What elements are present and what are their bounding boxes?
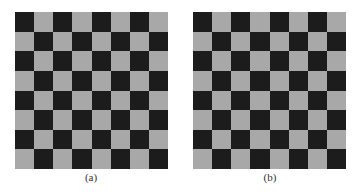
dark-square [193, 130, 212, 150]
light-square [53, 32, 72, 52]
caption-a: (a) [71, 171, 111, 183]
light-square [53, 149, 72, 169]
dark-square [327, 32, 346, 52]
light-square [193, 71, 212, 91]
light-square [231, 32, 250, 52]
dark-square [193, 12, 212, 32]
light-square [193, 149, 212, 169]
dark-square [193, 91, 212, 111]
light-square [15, 149, 34, 169]
dark-square [53, 130, 72, 150]
dark-square [130, 12, 149, 32]
dark-square [270, 130, 289, 150]
dark-square [231, 12, 250, 32]
dark-square [327, 110, 346, 130]
light-square [149, 130, 168, 150]
dark-square [212, 71, 231, 91]
checkerboard-b [193, 12, 346, 169]
caption-b: (b) [250, 171, 290, 183]
light-square [308, 110, 327, 130]
dark-square [72, 71, 91, 91]
light-square [15, 71, 34, 91]
light-square [130, 110, 149, 130]
light-square [92, 32, 111, 52]
dark-square [130, 91, 149, 111]
light-square [72, 91, 91, 111]
dark-square [130, 130, 149, 150]
checkerboard-a [15, 12, 168, 169]
dark-square [270, 51, 289, 71]
light-square [72, 51, 91, 71]
dark-square [53, 51, 72, 71]
light-square [53, 71, 72, 91]
light-square [34, 51, 53, 71]
light-square [231, 149, 250, 169]
light-square [92, 71, 111, 91]
dark-square [130, 51, 149, 71]
dark-square [53, 91, 72, 111]
dark-square [72, 110, 91, 130]
dark-square [111, 32, 130, 52]
dark-square [15, 91, 34, 111]
dark-square [231, 91, 250, 111]
light-square [289, 130, 308, 150]
dark-square [111, 149, 130, 169]
dark-square [289, 32, 308, 52]
light-square [327, 130, 346, 150]
dark-square [53, 12, 72, 32]
dark-square [34, 32, 53, 52]
dark-square [327, 149, 346, 169]
dark-square [250, 32, 269, 52]
light-square [34, 91, 53, 111]
light-square [327, 12, 346, 32]
light-square [308, 149, 327, 169]
light-square [130, 149, 149, 169]
light-square [149, 91, 168, 111]
dark-square [289, 149, 308, 169]
dark-square [308, 91, 327, 111]
dark-square [15, 51, 34, 71]
light-square [289, 12, 308, 32]
light-square [212, 51, 231, 71]
light-square [111, 91, 130, 111]
dark-square [212, 110, 231, 130]
dark-square [34, 71, 53, 91]
dark-square [92, 51, 111, 71]
light-square [193, 110, 212, 130]
light-square [53, 110, 72, 130]
light-square [289, 91, 308, 111]
dark-square [149, 149, 168, 169]
dark-square [231, 51, 250, 71]
light-square [111, 12, 130, 32]
light-square [231, 71, 250, 91]
light-square [270, 71, 289, 91]
light-square [250, 51, 269, 71]
light-square [149, 12, 168, 32]
light-square [250, 12, 269, 32]
dark-square [149, 110, 168, 130]
light-square [72, 12, 91, 32]
dark-square [72, 149, 91, 169]
light-square [250, 130, 269, 150]
light-square [270, 110, 289, 130]
dark-square [15, 12, 34, 32]
light-square [212, 91, 231, 111]
dark-square [15, 130, 34, 150]
dark-square [92, 91, 111, 111]
dark-square [308, 130, 327, 150]
light-square [34, 130, 53, 150]
light-square [250, 91, 269, 111]
light-square [15, 32, 34, 52]
dark-square [289, 110, 308, 130]
light-square [92, 110, 111, 130]
light-square [130, 71, 149, 91]
light-square [34, 12, 53, 32]
dark-square [308, 12, 327, 32]
light-square [130, 32, 149, 52]
dark-square [250, 110, 269, 130]
light-square [111, 51, 130, 71]
dark-square [250, 71, 269, 91]
light-square [193, 32, 212, 52]
dark-square [231, 130, 250, 150]
light-square [308, 71, 327, 91]
